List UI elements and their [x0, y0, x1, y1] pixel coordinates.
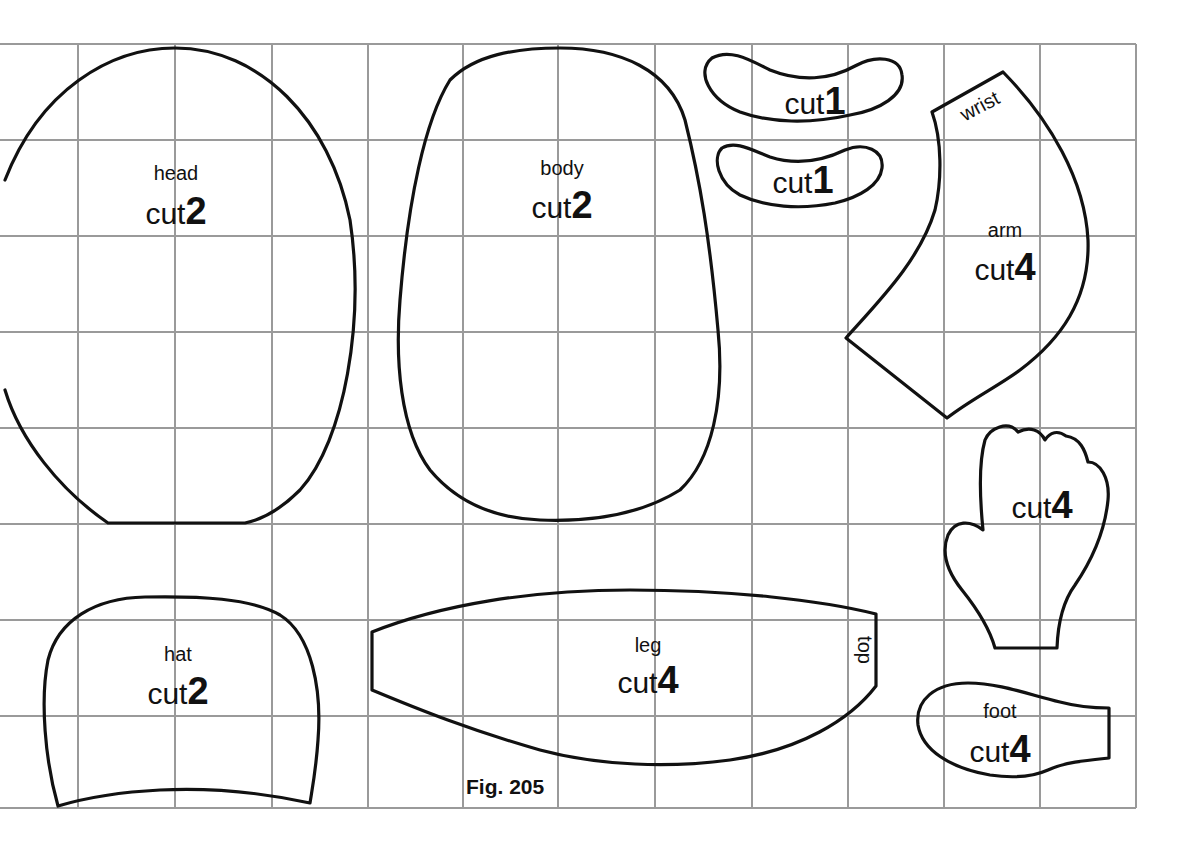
body-piece: body cut2: [398, 48, 720, 520]
head-label: head: [154, 162, 199, 184]
arm-wrist-label: wrist: [956, 86, 1004, 125]
body-label: body: [540, 157, 583, 179]
leg-top-label: top: [854, 636, 876, 664]
hat-piece: hat cut2: [44, 597, 319, 806]
hat-label: hat: [164, 643, 192, 665]
ear-piece-top: cut1: [705, 54, 902, 122]
hand-cut-instruction: cut4: [1011, 484, 1072, 526]
foot-piece: foot cut4: [918, 683, 1109, 777]
leg-piece: leg cut4 top: [372, 590, 876, 765]
head-cut-instruction: cut2: [145, 190, 206, 232]
leg-label: leg: [635, 634, 662, 656]
ear-bottom-cut-instruction: cut1: [772, 159, 833, 201]
arm-piece: arm cut4 wrist: [846, 72, 1088, 418]
arm-label: arm: [988, 219, 1022, 241]
hand-piece: cut4: [945, 426, 1108, 648]
foot-label: foot: [983, 700, 1017, 722]
foot-cut-instruction: cut4: [969, 728, 1030, 770]
head-piece: head cut2: [5, 48, 355, 523]
leg-cut-instruction: cut4: [617, 659, 678, 701]
ear-top-cut-instruction: cut1: [784, 80, 845, 122]
body-cut-instruction: cut2: [531, 184, 592, 226]
figure-caption: Fig. 205: [466, 775, 545, 798]
arm-cut-instruction: cut4: [974, 246, 1035, 288]
hat-cut-instruction: cut2: [147, 670, 208, 712]
ear-piece-bottom: cut1: [717, 145, 882, 207]
pattern-sheet: head cut2 body cut2 cut1 cut1 arm cut4 w…: [0, 0, 1194, 845]
